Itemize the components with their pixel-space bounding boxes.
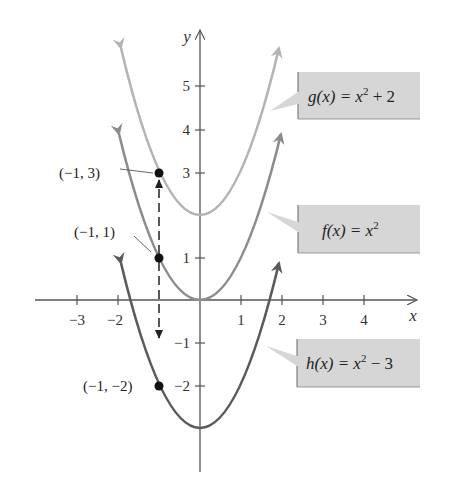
graph-canvas: −3 −2 1 2 3 4 x 5 4 3 1 −1 −2 y (−1, 3) …: [0, 0, 453, 491]
label-h-text: h(x) = x2 − 3: [306, 352, 393, 373]
label-box-g: g(x) = x2 + 2: [270, 72, 420, 119]
y-tick-label: 5: [183, 78, 191, 94]
point-label: (−1, −2): [83, 378, 132, 395]
point-neg1-neg2: [155, 382, 164, 391]
point-neg1-1: [155, 254, 164, 263]
y-tick-label: −1: [174, 335, 190, 351]
leader-line: [120, 169, 153, 173]
point-label: (−1, 3): [59, 165, 100, 182]
y-tick-label: −2: [174, 378, 190, 394]
x-tick-label: −3: [69, 312, 85, 328]
label-g-text: g(x) = x2 + 2: [308, 85, 395, 106]
x-tick-label: 2: [278, 312, 286, 328]
x-axis-label: x: [408, 306, 417, 325]
point-neg1-3: [155, 169, 164, 178]
y-tick-label: 1: [183, 250, 191, 266]
y-tick-label: 3: [183, 165, 191, 181]
leader-line: [134, 236, 151, 252]
label-box-f: f(x) = x2: [267, 205, 420, 253]
y-axis-label: y: [181, 27, 191, 46]
point-label: (−1, 1): [74, 224, 115, 241]
x-tick-label: 3: [319, 312, 327, 328]
x-tick-label: 4: [360, 312, 368, 328]
x-tick-label: 1: [237, 312, 245, 328]
label-f-text: f(x) = x2: [322, 219, 379, 240]
y-tick-label: 4: [183, 122, 191, 138]
label-box-h: h(x) = x2 − 3: [266, 339, 420, 387]
x-tick-label: −2: [107, 312, 123, 328]
